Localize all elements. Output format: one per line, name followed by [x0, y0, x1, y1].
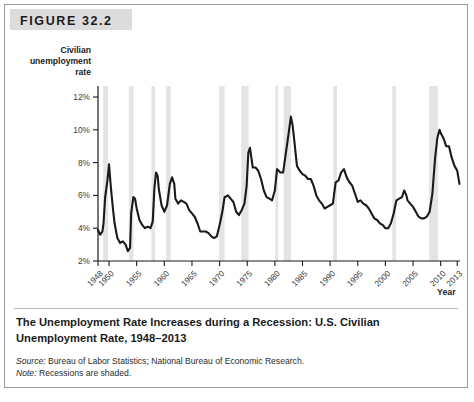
x-tick-label: 1970 [207, 269, 227, 289]
x-axis-title: Year [437, 287, 456, 297]
chart-plot-area: 2%4%6%8%10%12% 1948195019551960196519701… [5, 33, 467, 305]
x-axis-ticks: 1948195019551960196519701975198019851990… [86, 261, 465, 288]
x-tick-label: 2000 [373, 269, 393, 289]
figure-source-line: Source: Bureau of Labor Statistics; Nati… [16, 355, 460, 367]
x-tick-label: 1955 [124, 269, 144, 289]
y-axis-title: Civilianunemploymentrate [30, 45, 91, 77]
x-tick-label: 2005 [401, 269, 421, 289]
figure-container: FIGURE 32.2 2%4%6%8%10%12% 1948195019551… [4, 4, 468, 388]
y-tick-label: 8% [78, 158, 91, 168]
x-tick-label: 2010 [428, 269, 448, 289]
recession-band [284, 86, 291, 261]
recession-band [151, 86, 155, 261]
caption-divider [14, 308, 458, 309]
unemployment-line-chart: 2%4%6%8%10%12% 1948195019551960196519701… [5, 33, 467, 305]
x-tick-label: 1960 [152, 269, 172, 289]
figure-number-label: FIGURE 32.2 [20, 14, 113, 28]
figure-number-banner: FIGURE 32.2 [10, 9, 132, 30]
y-axis-title-line: unemployment [30, 56, 91, 66]
x-tick-label: 2013 [445, 269, 465, 289]
y-tick-label: 12% [73, 92, 90, 102]
recession-band [166, 86, 171, 261]
note-text: Recessions are shaded. [37, 368, 132, 378]
y-tick-label: 10% [73, 125, 90, 135]
recession-shaded-bands [103, 86, 438, 261]
recession-band [219, 86, 225, 261]
y-tick-label: 2% [78, 256, 91, 266]
x-tick-label: 1995 [345, 269, 365, 289]
y-tick-label: 6% [78, 190, 91, 200]
x-tick-label: 1990 [318, 269, 338, 289]
note-label: Note: [16, 368, 37, 378]
y-axis-title-line: rate [75, 67, 91, 77]
recession-band [333, 86, 337, 261]
figure-note-line: Note: Recessions are shaded. [16, 367, 460, 379]
caption-block: The Unemployment Rate Increases during a… [16, 315, 460, 380]
y-axis-title-line: Civilian [60, 45, 91, 55]
recession-band [392, 86, 396, 261]
x-tick-label: 1985 [290, 269, 310, 289]
y-axis-ticks: 2%4%6%8%10%12% [73, 92, 98, 266]
x-tick-label: 1980 [263, 269, 283, 289]
y-tick-label: 4% [78, 223, 91, 233]
source-label: Source: [16, 356, 46, 366]
x-tick-label: 1965 [180, 269, 200, 289]
source-text: Bureau of Labor Statistics; National Bur… [46, 356, 304, 366]
figure-caption-title: The Unemployment Rate Increases during a… [16, 315, 440, 346]
x-tick-label: 1975 [235, 269, 255, 289]
